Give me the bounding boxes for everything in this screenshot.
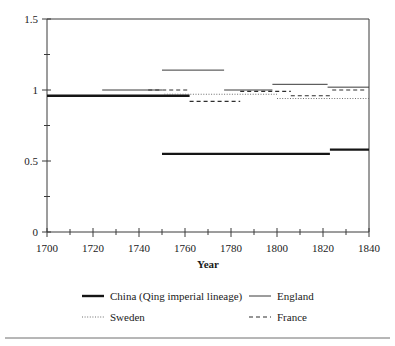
chart-figure: 00.511.5 1700172017401760178018001820184… — [0, 0, 395, 346]
line-chart-svg: 00.511.5 1700172017401760178018001820184… — [0, 0, 395, 346]
y-tick-label: 1 — [33, 84, 39, 96]
legend-item-china: China (Qing imperial lineage) — [82, 290, 243, 303]
y-tick-label: 0 — [33, 226, 39, 238]
x-axis-title: Year — [197, 258, 219, 270]
legend-item-france: France — [249, 311, 307, 323]
x-tick-label: 1760 — [174, 242, 197, 254]
chart-legend: China (Qing imperial lineage) England Sw… — [82, 290, 314, 323]
x-tick-label: 1800 — [266, 242, 289, 254]
legend-item-england: England — [249, 290, 314, 302]
legend-item-sweden: Sweden — [82, 311, 145, 323]
series-china — [47, 96, 369, 154]
x-tick-label: 1700 — [36, 242, 59, 254]
x-tick-label: 1740 — [128, 242, 151, 254]
series-sweden — [164, 94, 369, 98]
x-tick-label: 1780 — [220, 242, 243, 254]
legend-label-france: France — [277, 311, 307, 323]
x-tick-label: 1840 — [358, 242, 381, 254]
plot-frame — [47, 19, 369, 232]
legend-label-england: England — [277, 290, 314, 302]
legend-label-china: China (Qing imperial lineage) — [110, 290, 243, 303]
y-tick-label: 0.5 — [24, 155, 38, 167]
x-tick-label: 1820 — [312, 242, 335, 254]
x-tick-label: 1720 — [82, 242, 105, 254]
series-england — [102, 70, 369, 90]
legend-label-sweden: Sweden — [110, 311, 145, 323]
y-tick-label: 1.5 — [24, 13, 38, 25]
